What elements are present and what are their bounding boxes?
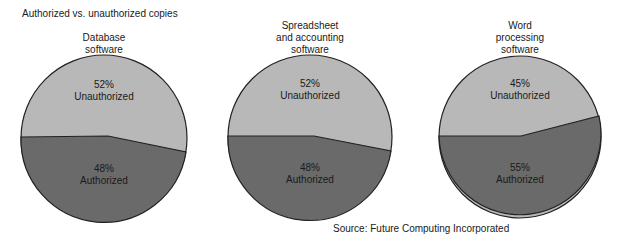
- label-unauthorized: Unauthorized: [74, 91, 133, 102]
- source-note: Source: Future Computing Incorporated: [333, 223, 509, 234]
- label-unauthorized: Unauthorized: [280, 90, 339, 101]
- pct-unauthorized: 52%: [300, 78, 320, 89]
- label-unauthorized: Unauthorized: [490, 90, 549, 101]
- label-authorized: Authorized: [286, 174, 334, 185]
- pie-database: 52% Unauthorized 48% Authorized: [21, 55, 187, 222]
- pie-spreadsheet: 52% Unauthorized 48% Authorized: [228, 55, 392, 220]
- pct-authorized: 55%: [510, 162, 530, 173]
- label-authorized: Authorized: [80, 175, 128, 186]
- label-authorized: Authorized: [496, 174, 544, 185]
- pct-authorized: 48%: [300, 162, 320, 173]
- pct-unauthorized: 52%: [94, 79, 114, 90]
- pie-charts: 52% Unauthorized 48% Authorized 52% Unau…: [0, 0, 620, 243]
- pct-unauthorized: 45%: [510, 78, 530, 89]
- pie-word-processing: 45% Unauthorized 55% Authorized: [439, 56, 601, 218]
- pct-authorized: 48%: [94, 163, 114, 174]
